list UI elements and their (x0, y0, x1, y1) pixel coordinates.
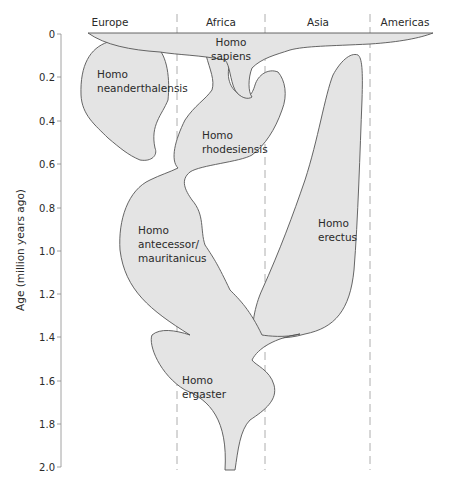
shape-homo-neanderthalensis (81, 39, 169, 160)
label-sapiens-2: sapiens (211, 50, 251, 62)
label-antecessor-3: mauritanicus (138, 252, 207, 264)
tick-1.8: 1.8 (39, 419, 55, 430)
label-erectus-1: Homo (318, 217, 349, 229)
tick-1.2: 1.2 (39, 289, 55, 300)
label-ergaster-2: ergaster (182, 388, 227, 400)
tick-0: 0 (49, 29, 55, 40)
tick-0.6: 0.6 (39, 159, 55, 170)
tick-1.0: 1.0 (39, 246, 55, 257)
hominin-distribution-diagram: Europe Africa Asia Americas 0 0.2 0.4 0.… (0, 0, 450, 491)
label-neanderthalensis-2: neanderthalensis (97, 82, 188, 94)
y-axis (57, 34, 61, 467)
tick-1.6: 1.6 (39, 376, 55, 387)
species-shapes (81, 33, 433, 470)
label-neanderthalensis-1: Homo (97, 68, 128, 80)
label-erectus-2: erectus (318, 231, 357, 243)
tick-2.0: 2.0 (39, 462, 55, 473)
label-antecessor-2: antecessor/ (138, 238, 200, 250)
region-asia: Asia (307, 16, 329, 28)
region-europe: Europe (92, 16, 129, 28)
label-sapiens-1: Homo (216, 36, 247, 48)
tick-0.2: 0.2 (39, 72, 55, 83)
tick-1.4: 1.4 (39, 332, 55, 343)
tick-0.4: 0.4 (39, 116, 55, 127)
label-rhodesiensis-2: rhodesiensis (202, 143, 268, 155)
y-tick-labels: 0 0.2 0.4 0.6 0.8 1.0 1.2 1.4 1.6 1.8 2.… (39, 29, 55, 473)
y-axis-label: Age (million years ago) (14, 189, 26, 311)
region-americas: Americas (381, 16, 430, 28)
label-ergaster-1: Homo (182, 374, 213, 386)
region-africa: Africa (206, 16, 236, 28)
label-antecessor-1: Homo (138, 224, 169, 236)
label-rhodesiensis-1: Homo (202, 129, 233, 141)
tick-0.8: 0.8 (39, 203, 55, 214)
